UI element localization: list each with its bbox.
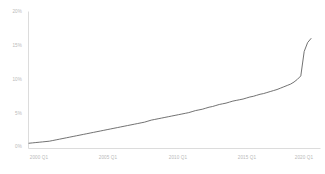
- x-tick-label-2000q1: 2000 Q1: [17, 156, 61, 161]
- x-tick-label-2020q1: 2020 Q1: [284, 156, 324, 161]
- y-tick-label-5: 5%: [2, 112, 22, 117]
- y-tick-label-20: 20%: [2, 10, 22, 15]
- line-chart: 20% 15% 10% 5% 0% 2000 Q1 2005 Q1 2010 Q…: [0, 0, 325, 174]
- x-tick-label-2015q1: 2015 Q1: [225, 156, 269, 161]
- y-tick-label-10: 10%: [2, 78, 22, 83]
- y-tick-label-15: 15%: [2, 44, 22, 49]
- y-tick-label-0: 0%: [2, 145, 22, 150]
- x-tick-label-2010q1: 2010 Q1: [156, 156, 200, 161]
- data-line-series: [29, 39, 311, 144]
- x-tick-label-2005q1: 2005 Q1: [86, 156, 130, 161]
- chart-plot-area: [0, 0, 325, 174]
